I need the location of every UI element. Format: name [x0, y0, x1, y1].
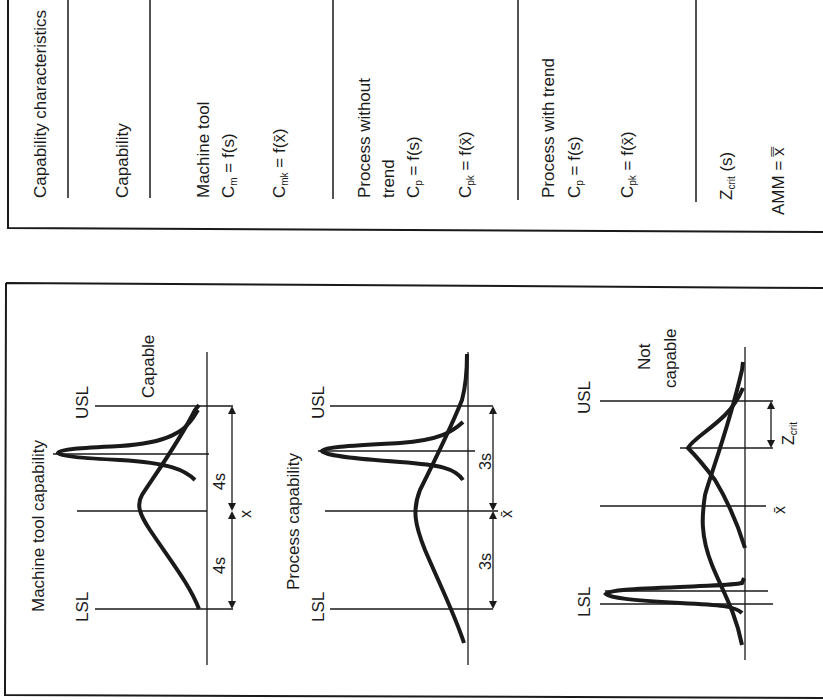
- panel-process: [318, 352, 498, 665]
- usl-label: USL: [576, 381, 593, 414]
- formula-cmk: Cmk = f(x̄): [271, 128, 290, 198]
- row-label-trend: trend: [380, 159, 397, 198]
- panel-title-process: Process capability: [285, 453, 302, 590]
- usl-label: USL: [310, 386, 327, 419]
- diagram-graphics: [0, 0, 823, 700]
- usl-label: USL: [74, 386, 91, 419]
- spread-label: 4s: [212, 557, 228, 574]
- spread-label: 3s: [478, 453, 494, 470]
- spread-label: 4s: [212, 473, 228, 490]
- panel-not-capable: [600, 347, 773, 660]
- formula-cp-trend: Cp = f(s): [566, 136, 585, 198]
- panel-title-machine-tool: Machine tool capability: [30, 440, 47, 612]
- status-capable: Capable: [140, 335, 157, 398]
- center-label: x̄: [499, 510, 515, 518]
- center-label: x: [238, 510, 254, 518]
- formula-zcrit: Zcrit (s): [718, 152, 737, 200]
- lsl-label: LSL: [576, 587, 593, 617]
- formula-cpk: Cpk = f(x̄): [457, 131, 476, 198]
- center-label: x̄: [772, 506, 788, 514]
- lsl-label: LSL: [310, 592, 327, 622]
- figure-border: [5, 283, 823, 698]
- status-not-capable-line1: Not: [636, 344, 653, 370]
- spread-label: 3s: [478, 553, 494, 570]
- formula-cpk-trend: Cpk = f(x̄): [619, 131, 638, 198]
- row-label-capability: Capability: [114, 123, 131, 198]
- row-label-process-with-trend: Process with trend: [540, 58, 557, 198]
- formula-cm: Cm = f(s): [220, 133, 239, 198]
- row-label-process-without-trend: Process without: [356, 78, 373, 198]
- formula-cp: Cp = f(s): [405, 136, 424, 198]
- zcrit-label: Zcrit: [781, 422, 799, 445]
- lsl-label: LSL: [74, 592, 91, 622]
- table-header: Capability characteristics: [32, 10, 49, 198]
- status-not-capable-line2: capable: [662, 328, 679, 388]
- formula-amm: AMM = x̿: [770, 147, 787, 215]
- row-label-machine-tool: Machine tool: [195, 102, 212, 198]
